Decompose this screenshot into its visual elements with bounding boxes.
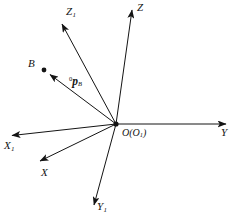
- axis-label-z1: Z1: [66, 6, 76, 19]
- origin-label-paren-close: ): [143, 127, 146, 138]
- axis-label-x1-subscript: 1: [11, 145, 15, 153]
- axis-label-x: X: [41, 167, 48, 178]
- axis-label-y1: Y1: [97, 201, 107, 214]
- axis-label-y-base: Y: [221, 126, 227, 138]
- axis-label-y1-subscript: 1: [103, 206, 107, 214]
- axes-vector-canvas: [0, 0, 237, 221]
- coordinate-frame-diagram: Z Y Z1 X1 X Y1 O(O1) B 0pB: [0, 0, 237, 221]
- axis-line-x1: [12, 124, 116, 136]
- origin-label-sub-base: O: [133, 127, 140, 138]
- axis-label-x1: X1: [4, 140, 15, 153]
- point-b-label-text: B: [28, 57, 35, 69]
- axis-label-y: Y: [221, 127, 227, 138]
- vector-p-b-label: 0pB: [69, 72, 82, 88]
- axis-line-y1: [94, 124, 116, 205]
- vector-p-subscript: B: [78, 80, 82, 87]
- axis-label-z1-subscript: 1: [72, 11, 76, 19]
- vector-line-p-b: [50, 75, 116, 125]
- axis-label-x1-base: X: [4, 139, 11, 151]
- origin-dot: [113, 121, 118, 126]
- point-b-dot: [42, 68, 47, 73]
- origin-label: O(O1): [122, 128, 146, 139]
- axis-line-z: [116, 10, 132, 124]
- axis-label-z: Z: [137, 2, 143, 13]
- point-b-label: B: [28, 58, 35, 69]
- axis-label-x-base: X: [41, 166, 48, 178]
- axis-label-z-base: Z: [137, 1, 143, 13]
- axis-line-x: [40, 124, 116, 161]
